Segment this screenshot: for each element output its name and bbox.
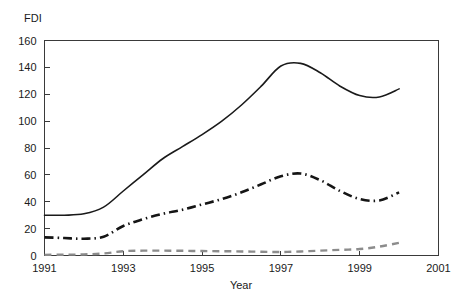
x-tick-label: 1999	[347, 262, 371, 274]
data-series-group	[45, 63, 400, 255]
fdi-line-chart: 020406080100120140160 199119931995199719…	[0, 0, 461, 301]
y-axis-title: FDI	[24, 12, 42, 24]
y-tick-label: 80	[24, 142, 36, 154]
x-axis-title: Year	[230, 279, 253, 291]
y-tick-label: 0	[30, 250, 36, 262]
y-tick-label: 160	[18, 35, 36, 47]
y-axis-ticks	[45, 41, 50, 256]
x-tick-label: 1997	[269, 262, 293, 274]
y-tick-label: 100	[18, 115, 36, 127]
series-line-middle	[45, 173, 400, 238]
x-tick-label: 1993	[111, 262, 135, 274]
x-tick-label: 1991	[32, 262, 56, 274]
x-tick-label: 1995	[190, 262, 214, 274]
y-tick-label: 140	[18, 61, 36, 73]
plot-frame	[45, 41, 439, 256]
y-tick-label: 120	[18, 88, 36, 100]
y-tick-label: 40	[24, 196, 36, 208]
x-axis-tick-labels: 199119931995199719992001	[32, 262, 450, 274]
y-tick-label: 60	[24, 169, 36, 181]
chart-canvas: 020406080100120140160 199119931995199719…	[0, 0, 461, 301]
x-tick-label: 2001	[426, 262, 450, 274]
series-line-lower	[45, 243, 400, 255]
y-tick-label: 20	[24, 223, 36, 235]
y-axis-tick-labels: 020406080100120140160	[18, 35, 36, 262]
